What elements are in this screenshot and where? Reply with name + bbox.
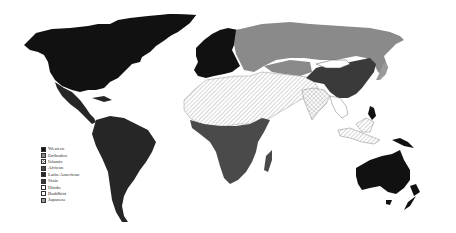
legend-label: Japanese — [48, 197, 66, 203]
region-new-guinea — [392, 138, 414, 148]
legend-label: Hindu — [48, 185, 61, 191]
legend-label: Orthodox — [48, 153, 67, 159]
region-tasmania — [386, 200, 392, 205]
legend-label: Islamic — [48, 159, 63, 165]
legend-swatch — [41, 179, 46, 184]
map-legend: Western Orthodox Islamic African Latin A… — [41, 146, 79, 204]
region-australia — [356, 150, 410, 194]
legend-swatch — [41, 198, 46, 203]
region-hindu — [302, 88, 330, 120]
legend-swatch — [41, 153, 46, 158]
region-south-america — [92, 116, 156, 222]
region-new-zealand — [404, 184, 420, 210]
region-greenland — [150, 14, 196, 42]
legend-swatch — [41, 185, 46, 190]
legend-swatch — [41, 191, 46, 196]
region-madagascar — [264, 150, 272, 172]
region-indonesia — [338, 128, 380, 144]
legend-label: Buddhist — [48, 191, 66, 197]
legend-swatch — [41, 172, 46, 177]
legend-item-japanese: Japanese — [41, 197, 79, 203]
region-southeast-asia — [330, 96, 348, 118]
region-sub-saharan-africa — [190, 118, 270, 184]
region-caribbean — [92, 96, 112, 102]
region-islamic — [184, 72, 318, 126]
legend-swatch — [41, 159, 46, 164]
region-borneo — [356, 118, 374, 132]
legend-swatch — [41, 147, 46, 152]
legend-label: Western — [48, 146, 64, 152]
legend-swatch — [41, 166, 46, 171]
legend-label: African — [48, 165, 63, 171]
legend-label: Latin American — [48, 172, 79, 178]
legend-label: Sinic — [48, 178, 58, 184]
region-philippines — [368, 106, 376, 120]
